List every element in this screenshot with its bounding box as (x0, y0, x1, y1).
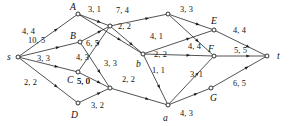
edge-label-B-n2: 4, 3 (76, 54, 89, 62)
arrow-head-icon (97, 69, 100, 73)
edge-n2-a (112, 89, 166, 105)
edge-label-G-t: 6, 5 (233, 80, 246, 88)
arrow-head-icon (196, 22, 200, 25)
edge-label-n1-b: 2, 2 (118, 23, 131, 31)
edge-label-n3-F: 4, 4 (188, 43, 201, 51)
node-label-a: a (163, 113, 168, 123)
node-label-s: s (7, 52, 11, 62)
node-B[interactable] (78, 40, 82, 44)
node-b[interactable] (141, 52, 145, 56)
node-label-t: t (277, 51, 280, 61)
node-n3[interactable] (166, 12, 170, 16)
edge-label-F-t: 5, 5 (234, 47, 247, 55)
edge-label-C-n2: 5, 0 (77, 78, 90, 86)
edge-b-a (144, 56, 167, 103)
node-label-F: F (208, 44, 214, 54)
arrow-head-icon (186, 54, 190, 57)
flow-network-figure: 4, 410, 53, 32, 23, 13, 36, 54, 35, 05, … (0, 0, 291, 126)
edge-label-n1-n3: 7, 4 (116, 7, 129, 15)
node-label-A: A (70, 2, 76, 12)
node-C[interactable] (76, 70, 80, 74)
edge-label-B-n1: 6, 5 (86, 40, 99, 48)
edge-a-F (169, 57, 212, 103)
node-G[interactable] (209, 86, 213, 90)
edge-label-s-D: 2, 2 (24, 79, 37, 87)
edge-label-b-F: 2, 2 (154, 51, 167, 59)
edge-line (169, 57, 212, 103)
node-A[interactable] (76, 12, 80, 16)
edge-line (144, 56, 167, 103)
node-label-b: b (136, 59, 141, 69)
arrow-head-icon (97, 20, 101, 23)
node-D[interactable] (76, 101, 80, 105)
edge-label-s-C: 3, 3 (37, 55, 50, 63)
node-a[interactable] (166, 103, 170, 107)
node-label-E: E (211, 16, 217, 26)
node-label-C: C (67, 75, 73, 85)
node-label-G: G (210, 93, 217, 103)
node-n1[interactable] (108, 24, 112, 28)
node-t[interactable] (265, 54, 269, 58)
node-E[interactable] (212, 28, 216, 32)
arrow-head-icon (145, 17, 149, 20)
node-label-D: D (71, 110, 78, 120)
edge-label-n3-E: 3, 3 (180, 6, 193, 14)
node-F[interactable] (212, 54, 216, 58)
arrow-head-icon (194, 93, 198, 96)
edge-line (112, 89, 166, 105)
arrow-head-icon (145, 97, 149, 100)
edge-label-n2-a: 2, 2 (122, 76, 135, 84)
edge-label-b-a: 1, 1 (152, 67, 165, 75)
edge-label-A-b: 3, 3 (104, 60, 117, 68)
node-n2[interactable] (108, 86, 112, 90)
edge-label-A-n1: 3, 1 (88, 6, 101, 14)
edge-label-D-n2: 3, 2 (91, 102, 104, 110)
edge-label-a-F: 3, 1 (190, 71, 203, 79)
arrow-head-icon (54, 29, 58, 32)
edge-label-s-B: 10, 5 (28, 37, 45, 45)
edge-label-a-G: 4, 3 (180, 110, 193, 118)
arrow-head-icon (186, 38, 190, 41)
edge-label-b-E: 4, 1 (150, 33, 163, 41)
node-s[interactable] (16, 55, 20, 59)
edge-label-E-t: 4, 4 (233, 27, 246, 35)
node-label-B: B (70, 31, 76, 41)
